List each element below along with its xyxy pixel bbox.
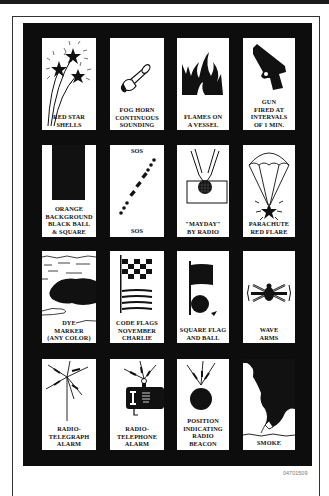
sos-morse-icon: [110, 145, 164, 237]
signal-card-fog-horn: FOG HORN CONTINUOUS SOUNDING: [110, 38, 164, 130]
smoke-icon: [243, 359, 295, 450]
signal-card-sos: SOS SOS: [110, 145, 164, 237]
signal-card-orange-background: ORANGE BACKGROUND BLACK BALL & SQUARE: [42, 145, 96, 237]
signal-label: FOG HORN CONTINUOUS SOUNDING: [110, 106, 164, 129]
signal-card-gun: GUN FIRED AT INTERVALS OF 1 MIN.: [243, 38, 295, 130]
signal-card-wave-arms: WAVE ARMS: [243, 251, 295, 343]
signal-card-square-flag-ball: SQUARE FLAG AND BALL: [177, 251, 229, 343]
signal-label: WAVE ARMS: [243, 326, 295, 341]
signal-label: CODE FLAGS NOVEMBER CHARLIE: [110, 319, 164, 342]
signal-label: RED STAR SHELLS: [42, 113, 96, 128]
signal-label: SQUARE FLAG AND BALL: [177, 326, 229, 341]
signal-label: POSITION INDICATING RADIO BEACON: [177, 417, 229, 447]
top-rule: [0, 0, 329, 4]
signal-label: ORANGE BACKGROUND BLACK BALL & SQUARE: [42, 205, 96, 235]
signal-card-position-beacon: POSITION INDICATING RADIO BEACON: [177, 359, 229, 450]
signal-label: "MAYDAY" BY RADIO: [177, 220, 229, 235]
signal-card-red-star-shells: RED STAR SHELLS: [42, 38, 96, 130]
signal-label: SOS: [110, 227, 164, 235]
signal-label: GUN FIRED AT INTERVALS OF 1 MIN.: [243, 98, 295, 128]
signal-card-smoke: SMOKE: [243, 359, 295, 450]
signal-card-radiotelephone: RADIO- TELEPHONE ALARM: [110, 359, 164, 450]
signal-card-dye-marker: DYE MARKER (ANY COLOR): [42, 251, 96, 343]
signal-card-code-flags: CODE FLAGS NOVEMBER CHARLIE: [110, 251, 164, 343]
signal-label: RADIO- TELEGRAPH ALARM: [42, 425, 96, 448]
signal-card-radiotelegraph: RADIO- TELEGRAPH ALARM: [42, 359, 96, 450]
figure-code: 04701509: [283, 470, 307, 476]
signal-label: RADIO- TELEPHONE ALARM: [110, 425, 164, 448]
signal-card-mayday: "MAYDAY" BY RADIO: [177, 145, 229, 237]
signal-label: FLAMES ON A VESSEL: [177, 113, 229, 128]
signal-label: DYE MARKER (ANY COLOR): [42, 319, 96, 342]
signal-card-flames: FLAMES ON A VESSEL: [177, 38, 229, 130]
signal-label: PARACHUTE RED FLARE: [243, 220, 295, 235]
signal-card-parachute: PARACHUTE RED FLARE: [243, 145, 295, 237]
signal-label: SMOKE: [243, 439, 295, 447]
